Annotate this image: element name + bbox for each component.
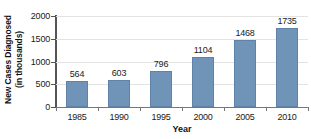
x-axis-tick-label: 2005 [235, 112, 254, 122]
x-axis-tick-label: 1995 [151, 112, 170, 122]
bar-slot: 796 [140, 16, 182, 107]
bar-slot: 1735 [266, 16, 308, 107]
bar-value-label: 796 [154, 59, 168, 69]
x-axis-tick-mark [308, 107, 309, 111]
y-axis-tick-mark [51, 39, 56, 40]
y-axis-title-line-1: New Cases Diagnosed [3, 15, 14, 104]
y-axis-tick-label: 1500 [24, 34, 50, 44]
bar-slot: 564 [56, 16, 98, 107]
bar-slot: 1468 [224, 16, 266, 107]
bar-chart-figure: New Cases Diagnosed (in thousands) 05001… [0, 0, 311, 139]
bar[interactable] [276, 28, 298, 107]
y-axis-tick-label: 1000 [24, 57, 50, 67]
x-axis-tick-mark [266, 107, 267, 111]
plot-area: 564603796110414681735 [56, 16, 308, 107]
bar-value-label: 1104 [194, 45, 213, 55]
x-axis-tick-label: 1985 [67, 112, 86, 122]
bar-slot: 1104 [182, 16, 224, 107]
x-axis-tick-mark [182, 107, 183, 111]
bar[interactable] [234, 40, 256, 107]
bar-series: 564603796110414681735 [56, 16, 308, 107]
y-axis-title: New Cases Diagnosed (in thousands) [0, 0, 26, 118]
bar-value-label: 1735 [277, 16, 296, 26]
bar[interactable] [150, 71, 172, 107]
bar-value-label: 603 [112, 68, 126, 78]
x-axis-tick-label: 1990 [109, 112, 128, 122]
x-axis-tick-mark [56, 107, 57, 111]
y-axis-title-line-2: (in thousands) [13, 15, 24, 104]
bar-value-label: 564 [70, 69, 84, 79]
bar-slot: 603 [98, 16, 140, 107]
y-axis-tick-label: 500 [24, 79, 50, 89]
bar[interactable] [108, 80, 130, 107]
x-axis-title: Year [56, 124, 308, 134]
y-axis-tick-label: 0 [24, 102, 50, 112]
bar-value-label: 1468 [235, 28, 254, 38]
bar[interactable] [192, 57, 214, 107]
x-axis-tick-label: 2010 [277, 112, 296, 122]
x-axis-tick-mark [224, 107, 225, 111]
y-axis-tick-labels: 0500100015002000 [24, 0, 50, 139]
y-axis-tick-mark [51, 16, 56, 17]
y-axis-tick-mark [51, 62, 56, 63]
y-axis-tick-label: 2000 [24, 11, 50, 21]
x-axis-tick-label: 2000 [193, 112, 212, 122]
bar[interactable] [66, 81, 88, 107]
x-axis-tick-mark [140, 107, 141, 111]
x-axis-tick-mark [98, 107, 99, 111]
y-axis-tick-mark [51, 84, 56, 85]
